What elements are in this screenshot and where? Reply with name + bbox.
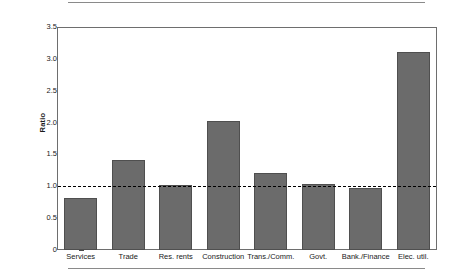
reference-line-1.0 <box>58 186 436 187</box>
bottom-horizontal-rule <box>68 268 425 269</box>
bar-services <box>64 198 97 250</box>
bar-elec-util <box>397 52 430 250</box>
y-tick-label: 3.5 <box>31 23 57 31</box>
y-tick-label: 1.0 <box>31 182 57 190</box>
bar-govt <box>302 184 335 250</box>
bar-bank-finance <box>349 188 382 250</box>
bar-trade <box>112 160 145 250</box>
y-tick-label: 2.5 <box>31 87 57 95</box>
y-tick-label: 1.5 <box>31 150 57 158</box>
top-horizontal-rule <box>68 2 425 3</box>
y-tick-label: 0.5 <box>31 214 57 222</box>
bar-chart-figure: Ratio 00.51.01.52.02.53.03.5 ServicesTra… <box>0 0 461 275</box>
bar-trans-comm <box>254 173 287 250</box>
y-tick-label: 3.0 <box>31 55 57 63</box>
y-axis-ticks: 00.51.01.52.02.53.03.5 <box>22 0 57 275</box>
bar-res-rents <box>159 185 192 250</box>
y-tick-label: 2.0 <box>31 119 57 127</box>
x-tick-label: Elec. util. <box>373 252 453 261</box>
